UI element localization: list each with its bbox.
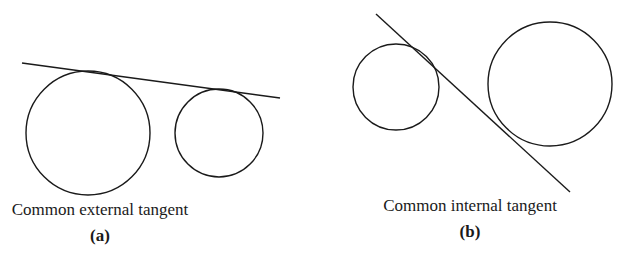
large-circle-b xyxy=(488,22,612,146)
caption-b: Common internal tangent xyxy=(383,196,557,216)
figure-a-external-tangent xyxy=(22,63,280,195)
small-circle-a xyxy=(175,89,263,177)
small-circle-b xyxy=(353,44,439,130)
internal-tangent-line xyxy=(376,14,570,192)
label-b: (b) xyxy=(460,222,481,242)
figure-b-internal-tangent xyxy=(353,14,612,192)
caption-a: Common external tangent xyxy=(12,200,189,220)
large-circle-a xyxy=(26,71,150,195)
label-a: (a) xyxy=(90,226,110,246)
external-tangent-line xyxy=(22,63,280,98)
